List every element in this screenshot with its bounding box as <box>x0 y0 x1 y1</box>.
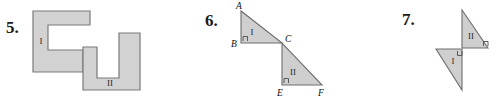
vertex-label-a: A <box>235 1 242 11</box>
shape-5-II-label: II <box>107 78 113 88</box>
vertex-label-f: F <box>317 88 324 98</box>
worksheet-page: 5. 6. 7. I II I A B C II E F I I <box>0 0 502 103</box>
figures-canvas: I II I A B C II E F I II <box>0 0 502 103</box>
vertex-label-c: C <box>285 34 292 44</box>
shape-7-II-label: II <box>468 31 474 41</box>
shape-5-I-label: I <box>40 36 43 46</box>
shape-7-I-label: I <box>452 56 455 66</box>
shape-7-II <box>462 10 488 48</box>
vertex-label-e: E <box>276 88 283 98</box>
shape-6-II-label: II <box>290 67 296 77</box>
vertex-label-b: B <box>231 39 237 49</box>
shape-6-I-label: I <box>251 27 254 37</box>
